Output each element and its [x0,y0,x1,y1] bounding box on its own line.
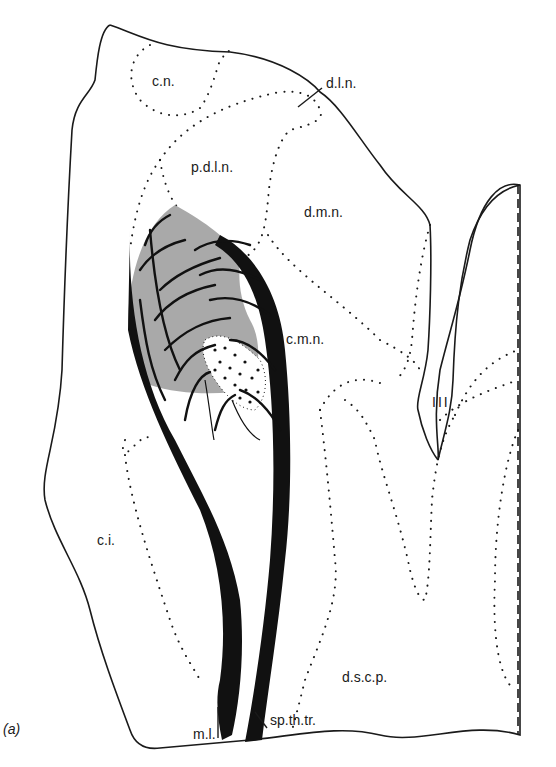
label-dmn: d.m.n. [304,205,343,219]
label-medial-lemniscus: m.l. [193,727,216,741]
label-dln: d.l.n. [326,76,356,90]
brain-section-diagram [0,0,556,767]
third-ventricle-outline [438,185,520,460]
label-dscp: d.s.c.p. [342,670,387,684]
label-spinothalamic-tract: sp.th.tr. [270,713,316,727]
dln-pointer [298,88,322,107]
label-cmn: c.m.n. [286,332,324,346]
label-internal-capsule: c.i. [97,533,115,547]
panel-label: (a) [3,722,20,736]
label-third-ventricle: III [432,395,450,409]
label-pdln: p.d.l.n. [191,160,233,174]
label-caudate-nucleus: c.n. [152,74,175,88]
